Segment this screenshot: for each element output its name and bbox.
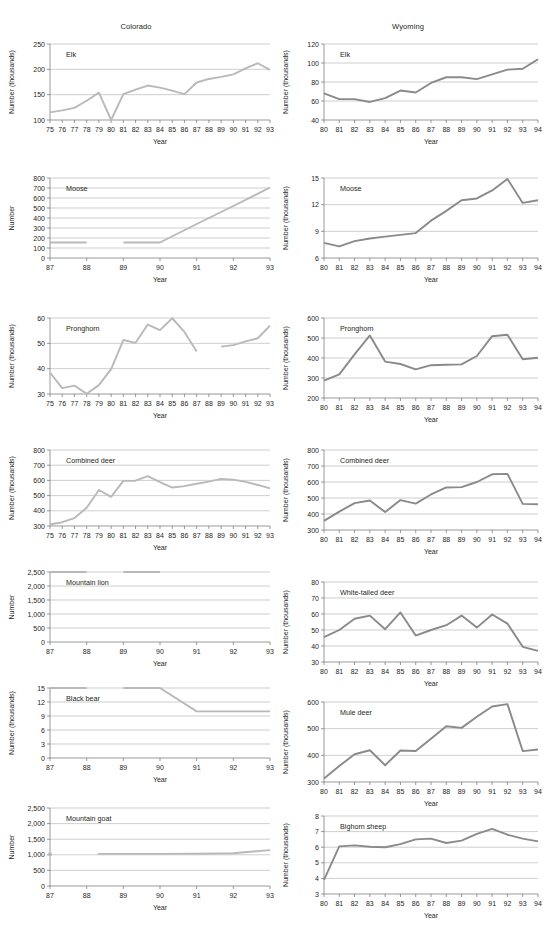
x-axis-title: Year <box>153 138 168 145</box>
x-tick-label: 85 <box>397 264 405 271</box>
x-tick-label: 85 <box>397 536 405 543</box>
x-tick-label: 92 <box>504 536 512 543</box>
y-axis-title: Number (thousands) <box>8 50 16 114</box>
y-tick-label: 1,000 <box>27 611 45 618</box>
x-tick-label: 91 <box>193 764 201 771</box>
x-tick-label: 82 <box>351 900 359 907</box>
y-tick-label: 400 <box>307 355 319 362</box>
y-tick-label: 1,000 <box>27 851 45 858</box>
x-axis-title: Year <box>153 276 168 283</box>
chart-panel-colorado-moose: 010020030040050060070080087888990919293M… <box>4 168 276 290</box>
x-tick-label: 79 <box>95 400 103 407</box>
x-axis-title: Year <box>153 412 168 419</box>
chart-colorado-moose: 010020030040050060070080087888990919293M… <box>4 168 276 290</box>
x-tick-label: 92 <box>229 648 237 655</box>
x-tick-label: 86 <box>181 532 189 539</box>
x-tick-label: 92 <box>229 892 237 899</box>
x-tick-label: 94 <box>534 900 542 907</box>
y-tick-label: 60 <box>37 315 45 322</box>
x-tick-label: 82 <box>132 126 140 133</box>
x-tick-label: 93 <box>266 400 274 407</box>
y-tick-label: 80 <box>311 579 319 586</box>
y-tick-label: 80 <box>311 79 319 86</box>
y-tick-label: 200 <box>33 235 45 242</box>
data-series-line <box>324 829 538 880</box>
x-tick-label: 90 <box>473 668 481 675</box>
x-tick-label: 92 <box>504 668 512 675</box>
x-tick-label: 92 <box>229 764 237 771</box>
x-tick-label: 82 <box>351 536 359 543</box>
x-tick-label: 84 <box>381 126 389 133</box>
chart-colorado-mountain-lion: 05001,0001,5002,0002,50087888990919293Mo… <box>4 562 276 674</box>
y-tick-label: 100 <box>307 60 319 67</box>
x-tick-label: 88 <box>442 668 450 675</box>
x-tick-label: 81 <box>335 404 343 411</box>
y-tick-label: 500 <box>33 492 45 499</box>
y-tick-label: 15 <box>37 685 45 692</box>
y-tick-label: 300 <box>33 523 45 530</box>
x-tick-label: 82 <box>132 532 140 539</box>
data-series-line <box>50 476 270 524</box>
y-tick-label: 2,500 <box>27 805 45 812</box>
x-tick-label: 81 <box>119 126 127 133</box>
y-axis-title: Number (thousands) <box>8 324 16 388</box>
x-tick-label: 93 <box>519 126 527 133</box>
x-tick-label: 87 <box>46 648 54 655</box>
chart-panel-colorado-elk: 1001502002507576777879808182838485868788… <box>4 34 276 152</box>
y-tick-label: 600 <box>307 699 319 706</box>
chart-colorado-pronghorn: 3040506075767778798081828384858687888990… <box>4 308 276 426</box>
x-axis-title: Year <box>424 912 439 919</box>
x-tick-label: 93 <box>266 532 274 539</box>
x-tick-label: 83 <box>366 404 374 411</box>
y-axis-title: Number (thousands) <box>282 823 290 887</box>
y-tick-label: 8 <box>315 813 319 820</box>
x-tick-label: 81 <box>119 532 127 539</box>
x-tick-label: 90 <box>156 264 164 271</box>
x-tick-label: 82 <box>351 126 359 133</box>
x-tick-label: 81 <box>335 668 343 675</box>
x-tick-label: 87 <box>46 764 54 771</box>
x-tick-label: 89 <box>119 648 127 655</box>
x-tick-label: 90 <box>229 532 237 539</box>
x-tick-label: 86 <box>181 126 189 133</box>
x-tick-label: 85 <box>168 532 176 539</box>
x-tick-label: 90 <box>156 764 164 771</box>
data-series-line <box>324 59 538 102</box>
y-axis-title: Number (thousands) <box>282 50 290 114</box>
y-tick-label: 120 <box>307 41 319 48</box>
x-tick-label: 87 <box>427 404 435 411</box>
x-tick-label: 89 <box>458 264 466 271</box>
x-tick-label: 87 <box>427 668 435 675</box>
x-tick-label: 84 <box>156 532 164 539</box>
y-tick-label: 0 <box>41 755 45 762</box>
y-tick-label: 2,500 <box>27 569 45 576</box>
x-tick-label: 88 <box>83 764 91 771</box>
series-label-colorado-mountain-lion: Mountain lion <box>66 578 109 587</box>
y-tick-label: 500 <box>33 205 45 212</box>
series-label-wyoming-bighorn-sheep: Bighorn sheep <box>340 822 386 831</box>
y-tick-label: 30 <box>37 391 45 398</box>
x-tick-label: 80 <box>320 900 328 907</box>
x-tick-label: 88 <box>442 126 450 133</box>
chart-panel-wyoming-moose: 691215808182838485868788899091929394Moos… <box>278 168 544 290</box>
y-tick-label: 7 <box>315 828 319 835</box>
series-label-colorado-combined-deer: Combined deer <box>66 456 116 465</box>
x-tick-label: 87 <box>427 536 435 543</box>
x-tick-label: 76 <box>58 400 66 407</box>
x-tick-label: 86 <box>181 400 189 407</box>
y-tick-label: 700 <box>33 462 45 469</box>
x-tick-label: 84 <box>156 126 164 133</box>
x-tick-label: 78 <box>83 532 91 539</box>
x-tick-label: 88 <box>442 404 450 411</box>
x-tick-label: 85 <box>397 126 405 133</box>
x-tick-label: 90 <box>473 404 481 411</box>
y-tick-label: 600 <box>307 479 319 486</box>
x-tick-label: 91 <box>193 264 201 271</box>
x-tick-label: 91 <box>488 404 496 411</box>
series-label-wyoming-moose: Moose <box>340 184 362 193</box>
x-tick-label: 92 <box>504 788 512 795</box>
x-tick-label: 80 <box>320 536 328 543</box>
series-label-wyoming-combined-deer: Combined deer <box>340 456 390 465</box>
x-tick-label: 79 <box>95 532 103 539</box>
y-tick-label: 9 <box>315 228 319 235</box>
